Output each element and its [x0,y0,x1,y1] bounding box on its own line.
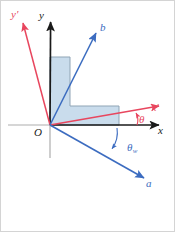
theta-w-label: θw [127,142,137,154]
vector-a-label: a [146,178,152,189]
origin-label: O [34,127,42,138]
vector-b-label: b [100,22,106,33]
y-axis [50,22,51,125]
theta-label: θ [139,114,144,125]
x-prime-axis-label: x′ [152,103,159,113]
figure-svg [0,0,175,232]
y-axis-label: y [39,10,44,21]
figure-canvas: y′ y b x′ θ x θw a O [0,0,175,232]
x-axis-label: x [158,125,163,136]
y-prime-axis-label: y′ [11,9,18,20]
